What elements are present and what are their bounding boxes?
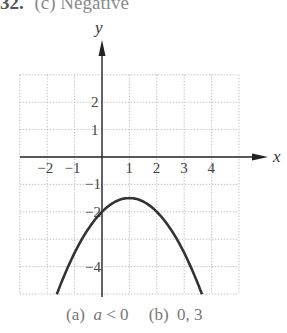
parabola-graph: y x −2−1123421−1−2−4 [0, 0, 287, 333]
svg-text:−2: −2 [37, 160, 53, 176]
answer-a-label: (a) [66, 305, 85, 324]
answer-b: (b) 0, 3 [149, 305, 203, 324]
answer-b-value: 0, 3 [177, 305, 203, 324]
y-axis-arrow-icon [99, 40, 106, 56]
answer-a-var: a [93, 305, 102, 324]
svg-text:4: 4 [208, 160, 216, 176]
grid [20, 75, 239, 294]
svg-text:1: 1 [91, 122, 99, 138]
x-axis-label: x [272, 147, 281, 166]
svg-text:2: 2 [153, 160, 161, 176]
answer-a: (a) a < 0 [66, 305, 128, 324]
svg-text:3: 3 [180, 160, 188, 176]
x-axis-arrow-icon [252, 154, 268, 161]
svg-text:1: 1 [125, 160, 132, 176]
svg-text:−1: −1 [85, 176, 101, 192]
y-axis-label: y [93, 18, 103, 37]
svg-text:−1: −1 [65, 160, 81, 176]
answer-caption: (a) a < 0 (b) 0, 3 [66, 305, 219, 325]
svg-text:2: 2 [91, 94, 99, 110]
answer-b-label: (b) [149, 305, 169, 324]
answer-a-rest: < 0 [102, 305, 129, 324]
svg-text:−4: −4 [85, 259, 101, 275]
